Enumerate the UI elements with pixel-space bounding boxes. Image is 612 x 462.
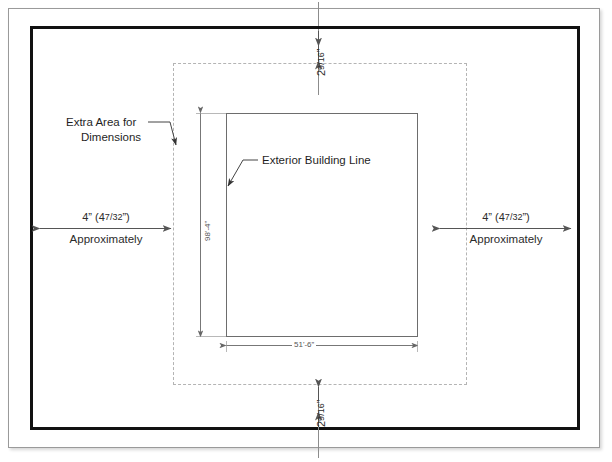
- exterior-building-rectangle: [226, 113, 418, 337]
- top-margin-denominator: 16: [316, 52, 326, 62]
- right-margin-primary: 4”: [482, 211, 492, 223]
- extra-area-label-line2: Dimensions: [81, 130, 141, 144]
- right-margin-paren-numerator: 7: [505, 212, 510, 222]
- bottom-margin-numerator: 9: [316, 416, 326, 421]
- bottom-margin-denominator: 16: [316, 403, 326, 413]
- building-width-dimension-text: 51'-6”: [292, 340, 316, 349]
- left-margin-dimension-text: 4” (47/32”): [46, 211, 166, 224]
- exterior-building-line-label: Exterior Building Line: [262, 153, 371, 167]
- top-margin-numerator: 9: [316, 65, 326, 70]
- right-margin-dimension-text: 4” (47/32”): [446, 211, 566, 224]
- building-height-dimension-text: 98'-4”: [203, 219, 212, 243]
- right-margin-note: Approximately: [446, 233, 566, 246]
- bottom-margin-dimension-text: 29/16”: [315, 400, 327, 427]
- left-margin-paren-numerator: 7: [105, 212, 110, 222]
- left-margin-paren-denominator: 32: [112, 212, 122, 222]
- bottom-margin-whole: 2: [315, 421, 327, 427]
- top-margin-unit: ”: [315, 49, 327, 53]
- right-margin-paren-denominator: 32: [512, 212, 522, 222]
- left-margin-note: Approximately: [46, 233, 166, 246]
- left-margin-paren-unit: ”: [122, 211, 126, 223]
- top-margin-whole: 2: [315, 70, 327, 76]
- drawing-canvas: 29/16” 29/16” 4” (47/32”) Approximately …: [0, 0, 612, 462]
- top-margin-dimension-text: 29/16”: [315, 49, 327, 76]
- extra-area-label-line1: Extra Area for: [66, 115, 136, 129]
- right-margin-paren-unit: ”: [522, 211, 526, 223]
- left-margin-primary: 4”: [82, 211, 92, 223]
- bottom-margin-unit: ”: [315, 400, 327, 404]
